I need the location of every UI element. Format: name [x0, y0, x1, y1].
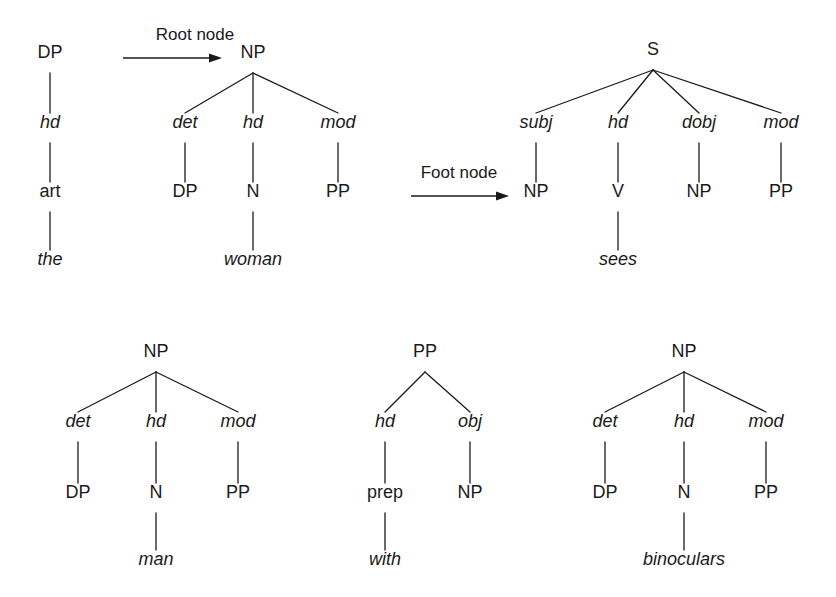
tree-node-label: NP	[240, 42, 265, 62]
tree-edge	[605, 372, 684, 412]
tree-node-label: obj	[458, 411, 483, 431]
tree-edge	[653, 70, 781, 113]
tree-edge	[684, 372, 766, 412]
tree-node-label: NP	[671, 341, 696, 361]
tree-node-label: hd	[146, 411, 167, 431]
tree-node-label: NP	[143, 341, 168, 361]
tree-node-label: det	[172, 112, 198, 132]
tree-node-label: prep	[367, 482, 403, 502]
tree-node-label: mod	[220, 411, 256, 431]
tree-node-label: DP	[592, 482, 617, 502]
tree-node-label: PP	[326, 181, 350, 201]
tree-node-label: NP	[686, 181, 711, 201]
tree-node-label: hd	[375, 411, 396, 431]
tree-diagram-figure: DPhdarttheNPdethdmodDPNPPwomanSsubjhddob…	[0, 0, 836, 597]
nodes-layer: DPhdarttheNPdethdmodDPNPPwomanSsubjhddob…	[37, 39, 799, 569]
edges-layer	[50, 70, 781, 550]
tree-edge	[185, 73, 253, 113]
tree-edge	[156, 372, 238, 412]
tree-node-label: hd	[40, 112, 61, 132]
tree-node-label: PP	[226, 482, 250, 502]
tree-node-label: subj	[519, 112, 553, 132]
tree-node-label: N	[247, 181, 260, 201]
tree-edge	[425, 372, 470, 412]
tree-edge	[385, 372, 425, 412]
tree-node-label: PP	[769, 181, 793, 201]
tree-node-label: with	[369, 549, 401, 569]
annotation-label-root-node: Root node	[156, 25, 234, 44]
tree-node-label: det	[592, 411, 618, 431]
tree-node-label: det	[65, 411, 91, 431]
tree-node-label: mod	[763, 112, 799, 132]
annotation-arrow-head-foot-node	[496, 192, 509, 201]
annotation-arrow-head-root-node	[209, 54, 222, 63]
tree-node-label: V	[612, 181, 624, 201]
tree-node-label: mod	[748, 411, 784, 431]
annotation-label-foot-node: Foot node	[421, 163, 498, 182]
tree-node-label: sees	[599, 249, 637, 269]
tree-node-label: PP	[413, 341, 437, 361]
tree-node-label: PP	[754, 482, 778, 502]
tree-node-label: hd	[674, 411, 695, 431]
tree-edge	[653, 70, 699, 113]
tree-node-label: NP	[523, 181, 548, 201]
tree-node-label: hd	[608, 112, 629, 132]
tree-node-label: N	[678, 482, 691, 502]
tree-node-label: DP	[172, 181, 197, 201]
tree-node-label: DP	[65, 482, 90, 502]
tree-node-label: woman	[224, 249, 282, 269]
tree-edge	[78, 372, 156, 412]
tree-node-label: DP	[37, 42, 62, 62]
tree-node-label: N	[150, 482, 163, 502]
tree-node-label: the	[37, 249, 62, 269]
tree-canvas: DPhdarttheNPdethdmodDPNPPwomanSsubjhddob…	[0, 0, 836, 597]
tree-node-label: art	[39, 181, 60, 201]
tree-node-label: dobj	[682, 112, 717, 132]
tree-node-label: binoculars	[643, 549, 725, 569]
tree-node-label: S	[647, 39, 659, 59]
tree-node-label: NP	[457, 482, 482, 502]
tree-node-label: man	[138, 549, 173, 569]
tree-node-label: mod	[320, 112, 356, 132]
tree-node-label: hd	[243, 112, 264, 132]
tree-edge	[253, 73, 338, 113]
